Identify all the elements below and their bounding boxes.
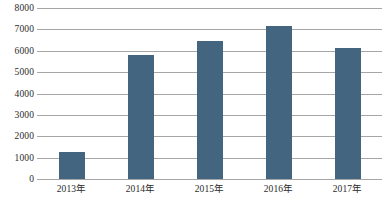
- bar-2016[interactable]: [266, 26, 292, 179]
- y-tick-label-2000: 2000: [0, 131, 34, 141]
- plot-area: 2013年 2014年 2015年 2016年 2017年: [37, 0, 382, 207]
- bar-2013[interactable]: [59, 152, 85, 179]
- bar-2014[interactable]: [128, 55, 154, 179]
- y-tick-label-4000: 4000: [0, 89, 34, 99]
- x-tick-label-2015: 2015年: [180, 183, 240, 195]
- x-tick-label-2016: 2016年: [249, 183, 309, 195]
- bar-chart: 0 1000 2000 3000 4000 5000 6000 7000 800…: [0, 0, 382, 207]
- y-tick-label-8000: 8000: [0, 3, 34, 13]
- y-tick-label-3000: 3000: [0, 110, 34, 120]
- bars-layer: [37, 0, 382, 207]
- x-tick-label-2017: 2017年: [318, 183, 378, 195]
- x-tick-label-2013: 2013年: [42, 183, 102, 195]
- y-tick-label-5000: 5000: [0, 67, 34, 77]
- x-axis: 2013年 2014年 2015年 2016年 2017年: [37, 183, 382, 199]
- y-tick-label-6000: 6000: [0, 46, 34, 56]
- y-tick-label-0: 0: [0, 174, 34, 184]
- bar-2017[interactable]: [335, 48, 361, 179]
- x-tick-label-2014: 2014年: [111, 183, 171, 195]
- y-tick-label-1000: 1000: [0, 153, 34, 163]
- y-axis: 0 1000 2000 3000 4000 5000 6000 7000 800…: [0, 0, 34, 207]
- bar-2015[interactable]: [197, 41, 223, 179]
- y-tick-label-7000: 7000: [0, 24, 34, 34]
